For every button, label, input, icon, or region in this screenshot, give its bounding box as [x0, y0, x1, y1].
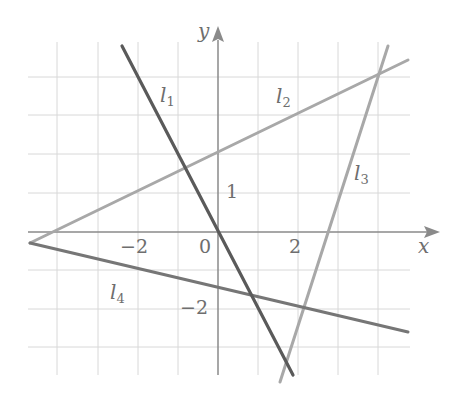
l1-label: l1 [160, 83, 175, 109]
l4-label: l4 [110, 280, 125, 306]
origin-label: 0 [199, 235, 211, 257]
y-axis-label: y [197, 19, 210, 43]
line-l4 [30, 243, 408, 332]
line-l1 [122, 46, 293, 375]
x-axis-label: x [418, 234, 429, 258]
tick-x-2: 2 [289, 235, 301, 257]
line-l2 [30, 60, 408, 243]
tick-x-neg2: −2 [120, 235, 148, 257]
tick-y-neg2: −2 [180, 296, 208, 318]
l3-label: l3 [354, 161, 369, 187]
tick-y-1: 1 [226, 180, 238, 202]
y-axis-arrow-icon [212, 26, 224, 42]
axes [28, 40, 428, 375]
l2-label: l2 [276, 84, 291, 110]
line-graph-figure: x y 0 −2 2 1 −2 l1 l2 l3 l4 [0, 0, 453, 395]
grid [28, 42, 410, 375]
